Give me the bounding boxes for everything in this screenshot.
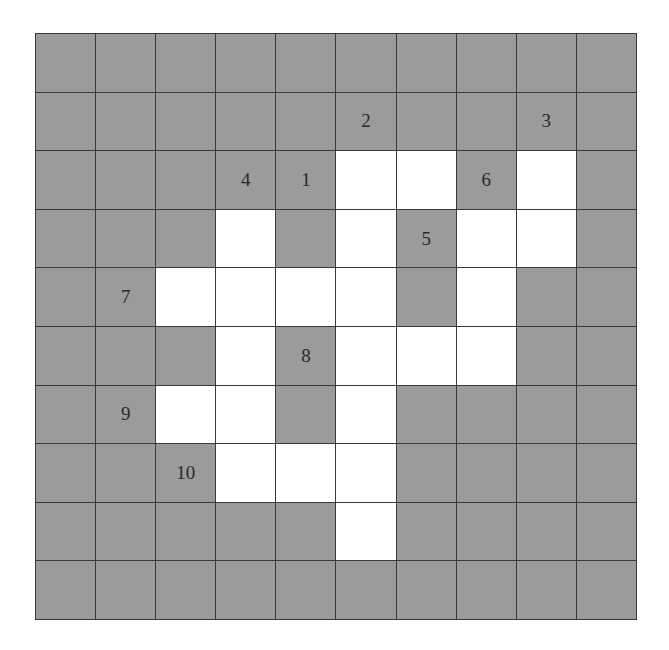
blocked-cell — [577, 561, 636, 619]
open-cell[interactable] — [397, 151, 456, 209]
open-cell[interactable] — [336, 444, 395, 502]
blocked-cell — [96, 151, 155, 209]
blocked-cell — [577, 444, 636, 502]
blocked-cell — [96, 210, 155, 268]
open-cell[interactable] — [517, 210, 576, 268]
blocked-cell — [517, 268, 576, 326]
clue-number: 9 — [121, 403, 131, 425]
blocked-cell — [457, 34, 516, 92]
blocked-cell — [517, 386, 576, 444]
blocked-cell — [276, 34, 335, 92]
blocked-cell — [276, 210, 335, 268]
blocked-cell — [36, 210, 95, 268]
blocked-cell — [577, 210, 636, 268]
blocked-cell: 2 — [336, 93, 395, 151]
blocked-cell — [156, 561, 215, 619]
blocked-cell — [276, 93, 335, 151]
blocked-cell — [156, 34, 215, 92]
blocked-cell — [36, 327, 95, 385]
blocked-cell — [577, 327, 636, 385]
open-cell[interactable] — [336, 327, 395, 385]
clue-number: 3 — [542, 110, 552, 132]
open-cell[interactable] — [216, 268, 275, 326]
open-cell[interactable] — [216, 444, 275, 502]
open-cell[interactable] — [336, 503, 395, 561]
open-cell[interactable] — [276, 268, 335, 326]
blocked-cell — [517, 34, 576, 92]
clue-number: 1 — [301, 169, 311, 191]
blocked-cell — [457, 386, 516, 444]
open-cell[interactable] — [336, 268, 395, 326]
blocked-cell — [96, 34, 155, 92]
open-cell[interactable] — [457, 268, 516, 326]
blocked-cell — [36, 503, 95, 561]
clue-number: 2 — [361, 110, 371, 132]
blocked-cell — [216, 34, 275, 92]
blocked-cell: 7 — [96, 268, 155, 326]
open-cell[interactable] — [156, 268, 215, 326]
blocked-cell — [397, 93, 456, 151]
clue-number: 7 — [121, 286, 131, 308]
blocked-cell — [36, 93, 95, 151]
open-cell[interactable] — [336, 151, 395, 209]
blocked-cell — [96, 503, 155, 561]
blocked-cell: 8 — [276, 327, 335, 385]
blocked-cell — [577, 34, 636, 92]
blocked-cell — [397, 503, 456, 561]
blocked-cell — [96, 444, 155, 502]
blocked-cell — [397, 386, 456, 444]
clue-number: 8 — [301, 345, 311, 367]
blocked-cell — [36, 444, 95, 502]
blocked-cell — [577, 386, 636, 444]
open-cell[interactable] — [457, 210, 516, 268]
blocked-cell — [577, 93, 636, 151]
blocked-cell — [336, 561, 395, 619]
blocked-cell — [457, 503, 516, 561]
open-cell[interactable] — [276, 444, 335, 502]
open-cell[interactable] — [156, 386, 215, 444]
blocked-cell — [276, 386, 335, 444]
blocked-cell — [517, 327, 576, 385]
clue-number: 4 — [241, 169, 251, 191]
blocked-cell — [216, 561, 275, 619]
blocked-cell — [156, 503, 215, 561]
blocked-cell — [457, 444, 516, 502]
blocked-cell — [517, 561, 576, 619]
clue-number: 6 — [481, 169, 491, 191]
blocked-cell — [156, 93, 215, 151]
blocked-cell: 9 — [96, 386, 155, 444]
blocked-cell: 3 — [517, 93, 576, 151]
blocked-cell — [457, 561, 516, 619]
open-cell[interactable] — [397, 327, 456, 385]
open-cell[interactable] — [336, 210, 395, 268]
open-cell[interactable] — [216, 327, 275, 385]
blocked-cell — [397, 268, 456, 326]
blocked-cell — [276, 561, 335, 619]
blocked-cell — [457, 93, 516, 151]
open-cell[interactable] — [457, 327, 516, 385]
blocked-cell — [577, 503, 636, 561]
blocked-cell — [36, 268, 95, 326]
open-cell[interactable] — [517, 151, 576, 209]
blocked-cell — [36, 386, 95, 444]
blocked-cell — [96, 561, 155, 619]
blocked-cell — [96, 93, 155, 151]
open-cell[interactable] — [336, 386, 395, 444]
blocked-cell — [276, 503, 335, 561]
open-cell[interactable] — [216, 386, 275, 444]
blocked-cell — [517, 503, 576, 561]
blocked-cell: 5 — [397, 210, 456, 268]
blocked-cell — [517, 444, 576, 502]
blocked-cell — [216, 503, 275, 561]
open-cell[interactable] — [216, 210, 275, 268]
blocked-cell — [397, 34, 456, 92]
clue-number: 10 — [176, 462, 195, 484]
blocked-cell — [156, 210, 215, 268]
blocked-cell — [36, 151, 95, 209]
blocked-cell — [36, 34, 95, 92]
blocked-cell — [96, 327, 155, 385]
blocked-cell: 4 — [216, 151, 275, 209]
clue-number: 5 — [421, 228, 431, 250]
crossword-grid: 23416578910 — [35, 33, 637, 620]
blocked-cell — [397, 561, 456, 619]
